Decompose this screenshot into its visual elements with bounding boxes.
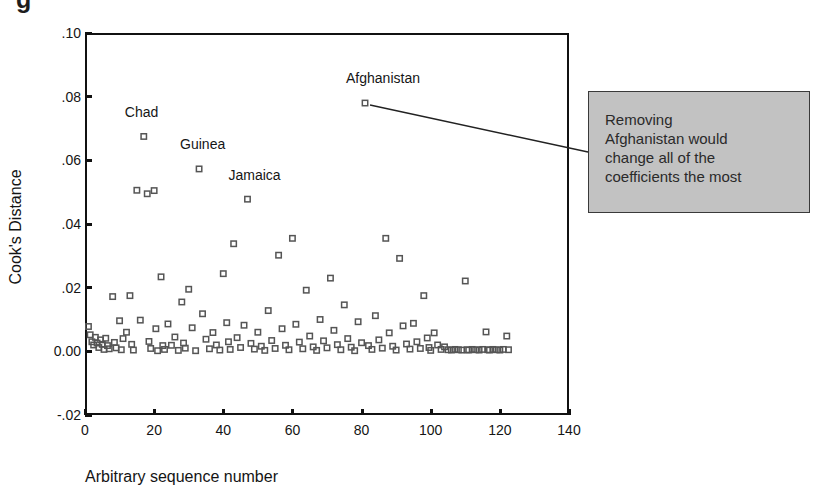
callout-line: coefficients the most bbox=[605, 167, 803, 186]
x-tick-mark bbox=[291, 409, 294, 415]
x-tick-mark bbox=[222, 409, 225, 415]
callout-box: RemovingAfghanistan wouldchange all of t… bbox=[588, 91, 810, 213]
x-tick-label: 40 bbox=[193, 422, 253, 438]
y-tick-mark bbox=[85, 223, 92, 226]
y-tick-label-wrap: .08 bbox=[26, 90, 81, 104]
x-tick-label: 120 bbox=[470, 422, 530, 438]
y-tick-label-wrap: .04 bbox=[26, 217, 81, 231]
point-label-afghanistan: Afghanistan bbox=[346, 71, 420, 86]
x-tick-label: 0 bbox=[55, 422, 115, 438]
point-label-guinea: Guinea bbox=[180, 137, 225, 152]
y-axis-title: Cook's Distance bbox=[7, 137, 25, 317]
y-tick-label: .10 bbox=[37, 26, 81, 40]
x-tick-mark bbox=[153, 409, 156, 415]
y-tick-label-wrap: .02 bbox=[26, 281, 81, 295]
y-tick-label-wrap: 0.00 bbox=[26, 344, 81, 358]
y-tick-mark bbox=[85, 350, 92, 353]
y-tick-label: .04 bbox=[37, 217, 81, 231]
y-tick-label-wrap: .10 bbox=[26, 26, 81, 40]
y-tick-label: 0.00 bbox=[37, 344, 81, 358]
point-label-chad: Chad bbox=[125, 105, 158, 120]
y-tick-label: .02 bbox=[37, 281, 81, 295]
x-tick-mark bbox=[430, 409, 433, 415]
callout-text: RemovingAfghanistan wouldchange all of t… bbox=[605, 110, 803, 186]
callout-line: change all of the bbox=[605, 148, 803, 167]
point-label-jamaica: Jamaica bbox=[228, 168, 280, 183]
y-tick-mark bbox=[85, 286, 92, 289]
callout-line: Removing bbox=[605, 110, 803, 129]
figure-container: g .10.08.06.04.020.00-.02 02040608010012… bbox=[0, 0, 815, 502]
x-tick-label: 80 bbox=[332, 422, 392, 438]
y-tick-label: -.02 bbox=[37, 408, 81, 422]
plot-area bbox=[85, 33, 569, 415]
y-tick-mark bbox=[85, 95, 92, 98]
y-tick-label: .08 bbox=[37, 90, 81, 104]
x-tick-mark bbox=[499, 409, 502, 415]
clipped-title-glyph: g bbox=[16, 0, 31, 12]
x-axis-title: Arbitrary sequence number bbox=[85, 468, 278, 486]
x-tick-label: 140 bbox=[539, 422, 599, 438]
x-tick-mark bbox=[361, 409, 364, 415]
y-tick-label-wrap: .06 bbox=[26, 153, 81, 167]
callout-line: Afghanistan would bbox=[605, 129, 803, 148]
x-tick-mark bbox=[568, 409, 571, 415]
y-tick-mark bbox=[85, 159, 92, 162]
x-tick-mark bbox=[84, 409, 87, 415]
y-tick-label: .06 bbox=[37, 153, 81, 167]
x-tick-label: 20 bbox=[124, 422, 184, 438]
y-tick-label-wrap: -.02 bbox=[26, 408, 81, 422]
x-tick-label: 60 bbox=[262, 422, 322, 438]
y-tick-mark bbox=[85, 32, 92, 35]
x-tick-label: 100 bbox=[401, 422, 461, 438]
